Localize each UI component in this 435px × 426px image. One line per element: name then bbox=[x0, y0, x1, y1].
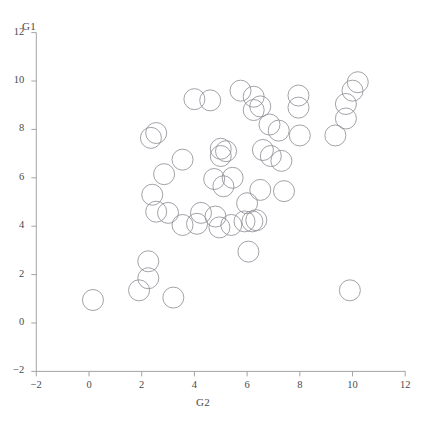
x-tick-label: 0 bbox=[76, 379, 102, 390]
data-point bbox=[288, 97, 309, 118]
data-point bbox=[205, 206, 226, 227]
data-point bbox=[335, 93, 356, 114]
data-point bbox=[250, 96, 271, 117]
data-point bbox=[200, 90, 221, 111]
y-tick-label: 2 bbox=[0, 268, 24, 279]
data-point bbox=[146, 123, 167, 144]
data-point bbox=[243, 86, 264, 107]
x-tick-label: 2 bbox=[129, 379, 155, 390]
data-point bbox=[222, 167, 243, 188]
data-point bbox=[163, 287, 184, 308]
x-tick-label: 4 bbox=[181, 379, 207, 390]
data-point bbox=[252, 139, 273, 160]
data-point bbox=[243, 100, 264, 121]
x-tick-label: 12 bbox=[392, 379, 418, 390]
data-point bbox=[289, 125, 310, 146]
data-point bbox=[230, 80, 251, 101]
y-tick-label: 0 bbox=[0, 316, 24, 327]
data-point bbox=[138, 251, 159, 272]
y-tick-label: 8 bbox=[0, 122, 24, 133]
data-point bbox=[339, 280, 360, 301]
data-point bbox=[187, 213, 208, 234]
x-tick-label: −2 bbox=[23, 379, 49, 390]
data-point bbox=[158, 202, 179, 223]
data-point bbox=[172, 149, 193, 170]
y-tick-label: 6 bbox=[0, 171, 24, 182]
plot-axes bbox=[31, 33, 405, 377]
y-tick-label: −2 bbox=[0, 364, 24, 375]
scatter-plot-canvas bbox=[0, 0, 435, 426]
x-tick-label: 6 bbox=[234, 379, 260, 390]
data-point bbox=[190, 202, 211, 223]
data-point bbox=[140, 127, 161, 148]
data-point bbox=[154, 164, 175, 185]
data-point bbox=[246, 210, 267, 231]
data-point bbox=[288, 85, 309, 106]
data-point bbox=[82, 290, 103, 311]
data-point bbox=[268, 120, 289, 141]
x-tick-label: 10 bbox=[340, 379, 366, 390]
data-point bbox=[238, 241, 259, 262]
data-point bbox=[342, 80, 363, 101]
data-point bbox=[237, 193, 258, 214]
data-point bbox=[347, 72, 368, 93]
chart-container: G1 G2 −2024681012−2024681012 bbox=[0, 0, 435, 426]
data-point bbox=[259, 114, 280, 135]
data-point bbox=[216, 141, 237, 162]
x-tick-label: 8 bbox=[287, 379, 313, 390]
data-point bbox=[273, 181, 294, 202]
y-tick-label: 10 bbox=[0, 74, 24, 85]
y-tick-label: 4 bbox=[0, 219, 24, 230]
data-points-group bbox=[82, 72, 368, 311]
data-point bbox=[204, 169, 225, 190]
y-tick-label: 12 bbox=[0, 26, 24, 37]
data-point bbox=[250, 179, 271, 200]
data-point bbox=[172, 214, 193, 235]
data-point bbox=[213, 176, 234, 197]
data-point bbox=[221, 214, 242, 235]
